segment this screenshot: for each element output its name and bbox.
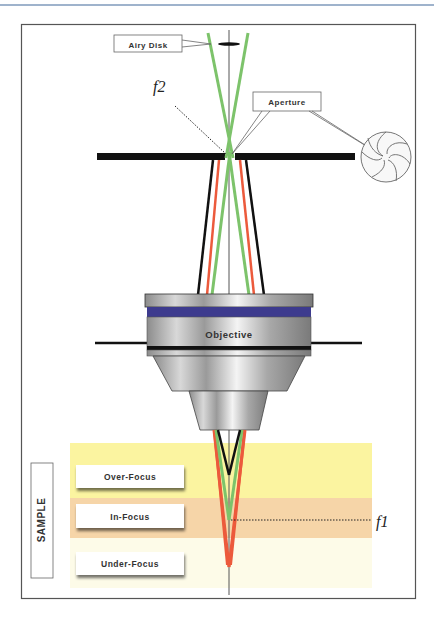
airy-disk xyxy=(218,42,240,46)
airy-disk-label: Airy Disk xyxy=(128,41,167,50)
sample-label: SAMPLE xyxy=(36,498,47,543)
in-focus-label: In-Focus xyxy=(110,512,149,522)
f2-label: f2 xyxy=(153,78,165,96)
objective-label: Objective xyxy=(205,329,252,340)
f1-label: f1 xyxy=(376,513,388,531)
under-focus-label: Under-Focus xyxy=(101,559,159,569)
aperture-plate-left xyxy=(97,153,225,160)
aperture-plate-right xyxy=(235,153,355,160)
iris-aperture-icon xyxy=(361,132,411,182)
objective-diagram: Airy Disk f2 Aperture Objective xyxy=(0,0,434,617)
sample-label-box: SAMPLE xyxy=(31,463,53,578)
over-focus-label: Over-Focus xyxy=(104,472,156,482)
aperture-label: Aperture xyxy=(268,98,305,107)
